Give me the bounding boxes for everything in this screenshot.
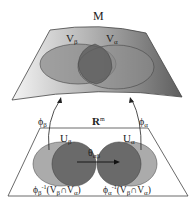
preimage-alpha-label: ϕα-1(Vβ∩Vα) [103,184,151,197]
phi-beta-label: ϕβ [38,117,47,129]
manifold-label: M [93,10,104,22]
preimage-beta-label: ϕβ-1(Vβ∩Vα) [33,184,81,197]
phi-alpha-label: ϕα [139,117,148,129]
u-beta-label: Uβ [60,133,72,146]
u-alpha-label: Uα [123,133,135,146]
theta-label: θαβ [88,148,100,160]
phi-alpha-arrowhead [129,97,134,103]
euclidean-label: Rm [92,116,105,127]
preimage-alpha-region [97,142,141,186]
v-beta-label: Vβ [66,33,78,46]
diagram-canvas [0,0,195,202]
phi-beta-arrowhead [57,97,62,103]
v-alpha-label: Vα [106,33,118,46]
